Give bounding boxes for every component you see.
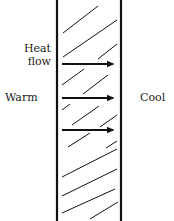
hatch-line bbox=[72, 106, 99, 125]
wall-cross-section bbox=[0, 0, 174, 221]
hatch-line bbox=[106, 141, 117, 148]
hatch-line bbox=[62, 69, 84, 85]
hatch-line bbox=[62, 104, 70, 110]
heat-flow-label-line2: flow bbox=[24, 55, 51, 68]
hatch-line bbox=[63, 6, 98, 33]
heat-flow-label-line1: Heat bbox=[24, 42, 51, 55]
cool-side-label: Cool bbox=[140, 91, 165, 104]
heat-conduction-diagram: Heat flow Warm Cool bbox=[0, 0, 174, 221]
heat-flow-arrows bbox=[62, 64, 113, 130]
hatch-line bbox=[63, 20, 117, 57]
hatch-line bbox=[90, 202, 118, 219]
hatch-line bbox=[98, 44, 117, 59]
hatch-line bbox=[100, 115, 117, 127]
warm-side-label: Warm bbox=[5, 91, 38, 104]
hatch-line bbox=[68, 133, 90, 147]
heat-flow-label: Heat flow bbox=[24, 42, 51, 68]
wall-hatching bbox=[62, 6, 118, 219]
hatch-line bbox=[83, 75, 108, 94]
